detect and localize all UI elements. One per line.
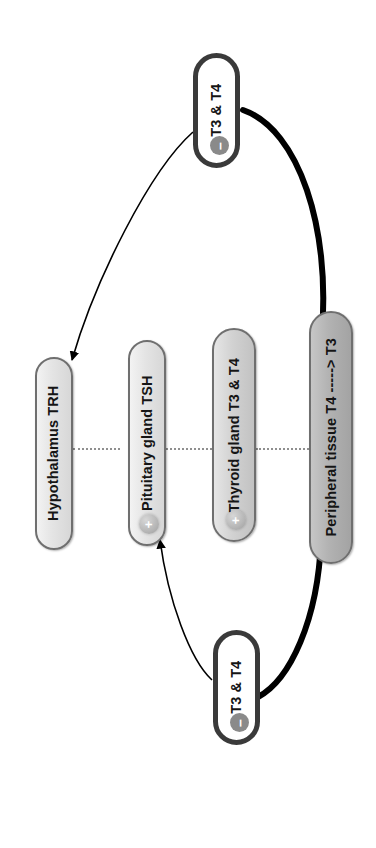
- bottom-inhibition-badge: –: [230, 713, 249, 732]
- axis-node-peripheral-tissue[interactable]: Peripheral tissue T4 -----> T3: [309, 311, 353, 564]
- edge-bottom-hormone-to-pituitary: [160, 540, 212, 680]
- axis-node-peripheral-tissue-label: Peripheral tissue T4 -----> T3: [324, 338, 339, 536]
- axis-node-pituitary[interactable]: Pituitary gland TSH +: [128, 340, 166, 546]
- axis-node-thyroid-label: Thyroid gland T3 & T4: [227, 358, 242, 512]
- axis-node-hypothalamus-label: Hypothalamus TRH: [47, 386, 62, 521]
- thyroid-stimulation-badge: +: [226, 510, 246, 530]
- axis-node-hypothalamus[interactable]: Hypothalamus TRH: [35, 357, 73, 550]
- edge-peripheral-to-top-hormone: [243, 110, 323, 330]
- pituitary-stimulation-badge: +: [139, 514, 159, 534]
- minus-icon: –: [232, 719, 246, 727]
- hormone-node-bottom-label: T3 & T4: [229, 661, 244, 714]
- plus-icon: +: [143, 520, 156, 528]
- plus-icon: +: [230, 516, 243, 524]
- edge-peripheral-to-bottom-hormone: [258, 540, 321, 697]
- hormone-node-top[interactable]: T3 & T4 –: [193, 53, 240, 168]
- hormone-node-top-label: T3 & T4: [209, 84, 224, 137]
- top-inhibition-badge: –: [210, 136, 229, 155]
- axis-node-pituitary-label: Pituitary gland TSH: [140, 375, 155, 511]
- minus-icon: –: [212, 142, 226, 150]
- axis-node-thyroid[interactable]: Thyroid gland T3 & T4 +: [212, 328, 256, 542]
- hormone-node-bottom[interactable]: T3 & T4 –: [213, 630, 260, 745]
- edge-top-hormone-to-hypothalamus: [72, 132, 193, 360]
- diagram-canvas: Hypothalamus TRH Pituitary gland TSH + T…: [0, 0, 376, 848]
